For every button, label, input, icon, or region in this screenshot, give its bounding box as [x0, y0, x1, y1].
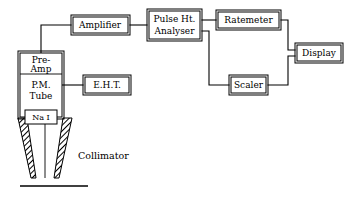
wire-preamp-to-amplifier: [41, 25, 71, 53]
amplifier-label: Amplifier: [78, 20, 122, 30]
preamp-label-line2: Amp: [30, 64, 52, 74]
scaler-box: Scaler: [229, 75, 268, 95]
collimator-label: Collimator: [78, 150, 129, 161]
ratemeter-label: Ratemeter: [224, 15, 273, 25]
wire-pha-to-scaler: [202, 31, 229, 85]
ratemeter-box: Ratemeter: [216, 10, 281, 30]
wire-ratemeter-to-display: [281, 20, 295, 50]
pha-label-line1: Pulse Ht.: [154, 14, 196, 24]
collimator-left-wall: [18, 118, 36, 178]
pulse-height-analyser-box: Pulse Ht. Analyser: [147, 9, 202, 41]
nai-label: Na I: [32, 113, 49, 122]
collimator-right-wall: [54, 118, 72, 178]
pmtube-label-line1: P.M.: [31, 80, 50, 90]
wire-scaler-to-display: [268, 56, 295, 85]
pha-label-line2: Analyser: [154, 26, 196, 36]
scaler-label: Scaler: [234, 80, 264, 90]
display-box: Display: [295, 43, 343, 63]
display-label: Display: [302, 48, 337, 58]
detector-head-box: Pre- Amp P.M. Tube: [18, 51, 64, 119]
diagram-canvas: Collimator Pre- Amp P.M. Tube Na I E.H.T…: [0, 0, 348, 206]
nai-crystal-box: Na I: [25, 110, 57, 124]
eht-label: E.H.T.: [93, 80, 121, 90]
collimator-assembly: Collimator: [18, 118, 129, 186]
amplifier-box: Amplifier: [71, 15, 130, 35]
eht-box: E.H.T.: [83, 75, 131, 95]
pmtube-label-line2: Tube: [30, 91, 53, 101]
block-diagram: Collimator Pre- Amp P.M. Tube Na I E.H.T…: [0, 0, 348, 206]
